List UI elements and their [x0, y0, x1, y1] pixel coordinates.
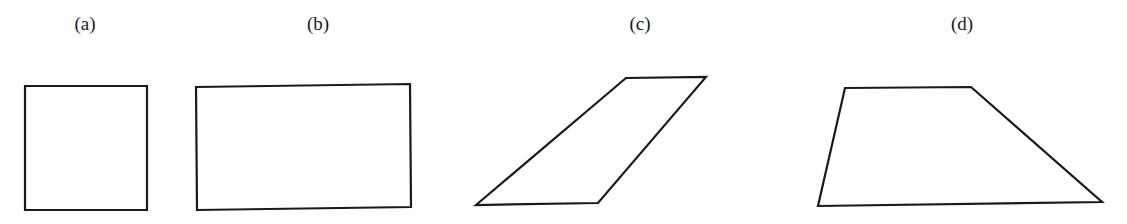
shapes-canvas: [0, 0, 1127, 224]
rectangle-shape: [196, 84, 411, 210]
square-shape: [25, 86, 147, 210]
parallelogram-shape: [476, 77, 706, 205]
trapezium-shape: [818, 87, 1102, 206]
